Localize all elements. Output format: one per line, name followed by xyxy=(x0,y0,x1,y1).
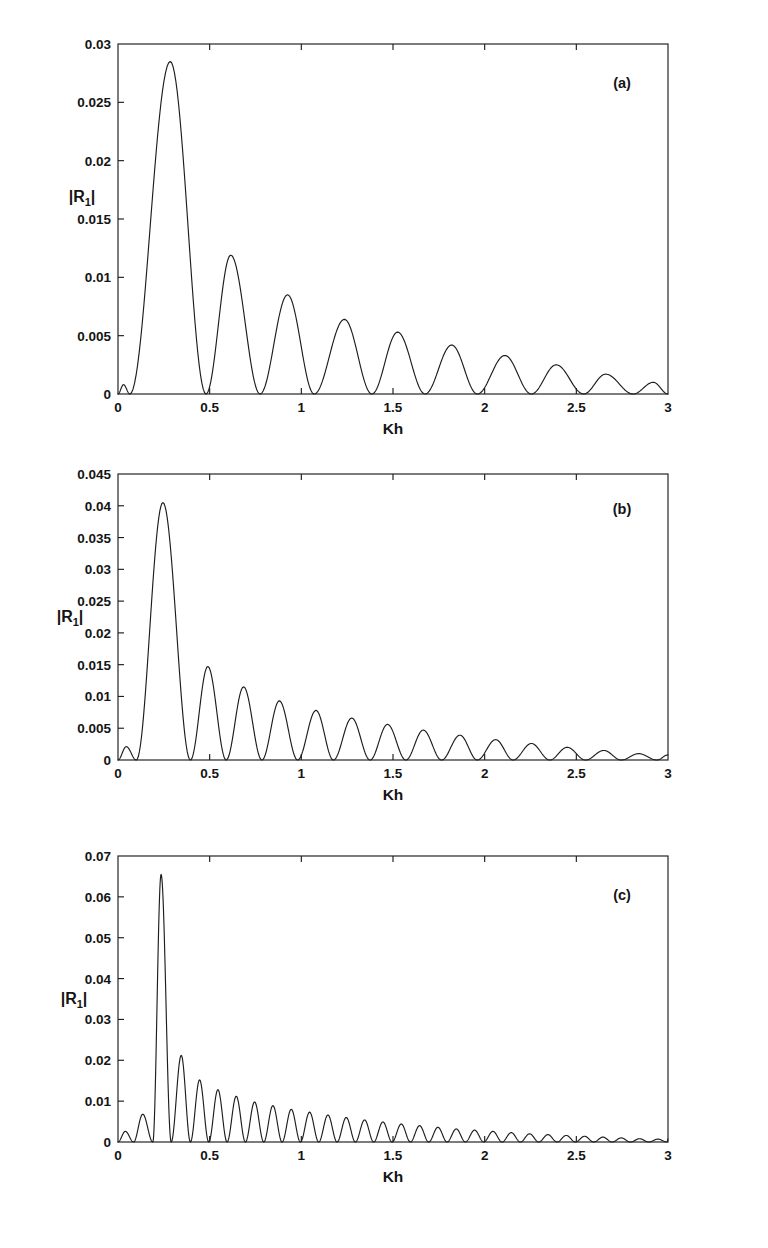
x-tick-label: 0.5 xyxy=(200,400,219,415)
figure-three-panel-reflection-plots: 00.511.522.5300.0050.010.0150.020.0250.0… xyxy=(0,0,768,1248)
x-axis-label: Kh xyxy=(383,786,404,803)
x-tick-label: 1 xyxy=(298,400,306,415)
plot-a-svg: 00.511.522.5300.0050.010.0150.020.0250.0… xyxy=(0,0,768,440)
y-tick-label: 0.01 xyxy=(85,270,112,285)
x-tick-label: 3 xyxy=(664,1148,672,1163)
y-tick-label: 0.02 xyxy=(85,626,111,641)
x-tick-label: 2.5 xyxy=(567,400,586,415)
y-tick-label: 0.035 xyxy=(77,531,111,546)
y-tick-label: 0.03 xyxy=(85,1012,112,1027)
y-tick-label: 0.015 xyxy=(77,658,111,673)
x-tick-label: 1.5 xyxy=(384,766,403,781)
y-axis-label: |R1| xyxy=(57,608,84,628)
y-tick-label: 0.05 xyxy=(85,931,112,946)
plot-c-svg: 00.511.522.5300.010.020.030.040.050.060.… xyxy=(0,812,768,1212)
y-tick-label: 0.04 xyxy=(85,972,112,987)
y-tick-label: 0.07 xyxy=(85,849,111,864)
y-tick-label: 0.005 xyxy=(77,329,111,344)
x-tick-label: 0 xyxy=(114,1148,122,1163)
y-tick-label: 0.01 xyxy=(85,689,112,704)
plot-panel-c: 00.511.522.5300.010.020.030.040.050.060.… xyxy=(0,812,768,1212)
plot-b-svg: 00.511.522.5300.0050.010.0150.020.0250.0… xyxy=(0,430,768,830)
y-axis-label: |R1| xyxy=(69,188,96,208)
y-tick-label: 0.02 xyxy=(85,154,111,169)
y-tick-label: 0.045 xyxy=(77,467,111,482)
x-tick-label: 0.5 xyxy=(200,1148,219,1163)
data-curve xyxy=(118,503,668,760)
y-tick-label: 0.04 xyxy=(85,499,112,514)
x-tick-label: 2.5 xyxy=(567,766,586,781)
y-tick-label: 0.03 xyxy=(85,37,112,52)
x-tick-label: 1 xyxy=(298,1148,306,1163)
x-axis-label: Kh xyxy=(383,1168,404,1185)
x-tick-label: 1.5 xyxy=(384,1148,403,1163)
y-tick-label: 0.005 xyxy=(77,721,111,736)
plot-panel-a: 00.511.522.5300.0050.010.0150.020.0250.0… xyxy=(0,0,768,440)
y-tick-label: 0 xyxy=(103,1135,111,1150)
x-tick-label: 3 xyxy=(664,400,672,415)
x-tick-label: 0 xyxy=(114,400,122,415)
x-tick-label: 0 xyxy=(114,766,122,781)
y-tick-label: 0.03 xyxy=(85,562,112,577)
x-tick-label: 2 xyxy=(481,400,489,415)
x-tick-label: 1.5 xyxy=(384,400,403,415)
y-tick-label: 0.06 xyxy=(85,890,112,905)
y-tick-label: 0.015 xyxy=(77,212,111,227)
x-tick-label: 1 xyxy=(298,766,306,781)
y-tick-label: 0 xyxy=(103,753,111,768)
y-tick-label: 0.025 xyxy=(77,594,111,609)
panel-tag: (b) xyxy=(613,501,632,517)
x-tick-label: 2 xyxy=(481,766,489,781)
plot-frame xyxy=(118,474,668,760)
y-tick-label: 0.01 xyxy=(85,1094,112,1109)
x-tick-label: 0.5 xyxy=(200,766,219,781)
panel-tag: (a) xyxy=(613,75,631,91)
data-curve xyxy=(118,874,668,1142)
plot-panel-b: 00.511.522.5300.0050.010.0150.020.0250.0… xyxy=(0,430,768,830)
y-tick-label: 0.025 xyxy=(77,95,111,110)
x-tick-label: 2 xyxy=(481,1148,489,1163)
y-axis-label: |R1| xyxy=(61,990,88,1010)
x-tick-label: 3 xyxy=(664,766,672,781)
plot-frame xyxy=(118,44,668,394)
data-curve xyxy=(118,62,668,395)
plot-frame xyxy=(118,856,668,1142)
y-tick-label: 0 xyxy=(103,387,111,402)
y-tick-label: 0.02 xyxy=(85,1053,111,1068)
x-tick-label: 2.5 xyxy=(567,1148,586,1163)
panel-tag: (c) xyxy=(613,887,631,903)
